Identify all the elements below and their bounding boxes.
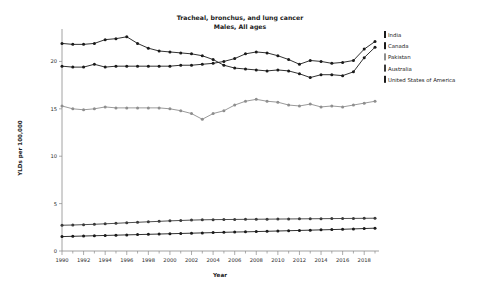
data-point [104, 222, 107, 225]
data-point [93, 234, 96, 237]
data-point [136, 42, 139, 45]
data-point [147, 233, 150, 236]
data-point [276, 101, 279, 104]
data-point [125, 233, 128, 236]
x-tick-label: 2012 [293, 257, 306, 263]
legend-swatch-icon [384, 76, 386, 83]
data-point [341, 105, 344, 108]
data-point [309, 217, 312, 220]
line-chart-figure: Tracheal, bronchus, and lung cancer Male… [0, 0, 480, 289]
data-point [222, 64, 225, 67]
data-point [352, 70, 355, 73]
data-point [104, 66, 107, 69]
legend-label: Pakistan [388, 54, 411, 60]
legend-item[interactable]: United States of America [384, 76, 455, 83]
data-point [168, 232, 171, 235]
data-point [276, 218, 279, 221]
legend-label: Australia [388, 66, 412, 72]
x-tick-label: 2002 [185, 257, 198, 263]
legend-item[interactable]: Canada [384, 42, 409, 49]
y-axis-label: YLDs per 100,000 [17, 120, 24, 177]
data-point [168, 219, 171, 222]
data-point [114, 234, 117, 237]
data-point [190, 64, 193, 67]
data-point [341, 228, 344, 231]
data-point [287, 229, 290, 232]
data-point [93, 42, 96, 45]
data-point [147, 47, 150, 50]
data-point [363, 56, 366, 59]
data-point [233, 218, 236, 221]
data-point [201, 218, 204, 221]
y-tick-label: 15 [50, 106, 57, 112]
data-point [255, 230, 258, 233]
data-point [212, 218, 215, 221]
data-point [190, 112, 193, 115]
x-tick-label: 2004 [207, 257, 221, 263]
data-point [158, 65, 161, 68]
x-tick-label: 2010 [271, 257, 284, 263]
data-point [147, 220, 150, 223]
legend-item[interactable]: Australia [384, 65, 412, 72]
data-point [114, 65, 117, 68]
legend-swatch-icon [384, 42, 386, 49]
data-point [179, 232, 182, 235]
data-point [298, 217, 301, 220]
data-point [222, 231, 225, 234]
data-point [114, 106, 117, 109]
data-point [82, 66, 85, 69]
data-point [244, 230, 247, 233]
data-point [341, 217, 344, 220]
data-point [61, 224, 64, 227]
x-tick-label: 1992 [77, 257, 90, 263]
data-point [298, 229, 301, 232]
data-point [330, 228, 333, 231]
data-point [212, 58, 215, 61]
y-tick-label: 5 [54, 201, 57, 207]
data-point [320, 73, 323, 76]
legend-swatch-icon [384, 31, 386, 38]
data-point [233, 104, 236, 107]
data-point [168, 50, 171, 53]
data-point [158, 220, 161, 223]
data-point [330, 217, 333, 220]
data-point [233, 231, 236, 234]
data-point [287, 104, 290, 107]
data-point [71, 224, 74, 227]
chart-title: Tracheal, bronchus, and lung cancer [177, 14, 304, 22]
data-point [201, 54, 204, 57]
data-point [363, 48, 366, 51]
data-point [309, 59, 312, 62]
legend-label: Canada [388, 43, 409, 49]
data-point [266, 218, 269, 221]
x-tick-label: 2008 [250, 257, 263, 263]
data-point [341, 61, 344, 64]
data-point [309, 76, 312, 79]
data-point [374, 46, 377, 49]
legend-swatch-icon [384, 53, 386, 60]
x-tick-label: 1996 [120, 257, 133, 263]
legend-item[interactable]: Pakistan [384, 53, 411, 60]
x-tick-label: 1998 [142, 257, 155, 263]
data-point [266, 100, 269, 103]
legend-label: United States of America [388, 77, 455, 83]
data-point [71, 43, 74, 46]
data-point [320, 105, 323, 108]
data-point [125, 35, 128, 38]
data-point [82, 43, 85, 46]
data-point [233, 67, 236, 70]
data-point [61, 65, 64, 68]
data-point [179, 219, 182, 222]
data-point [212, 231, 215, 234]
data-point [244, 218, 247, 221]
x-tick-label: 2016 [336, 257, 349, 263]
data-point [136, 221, 139, 224]
data-point [363, 227, 366, 230]
data-point [82, 108, 85, 111]
data-point [190, 219, 193, 222]
x-tick-label: 2006 [228, 257, 241, 263]
y-tick-label: 10 [50, 153, 57, 159]
data-point [114, 222, 117, 225]
data-point [244, 100, 247, 103]
data-point [114, 37, 117, 40]
